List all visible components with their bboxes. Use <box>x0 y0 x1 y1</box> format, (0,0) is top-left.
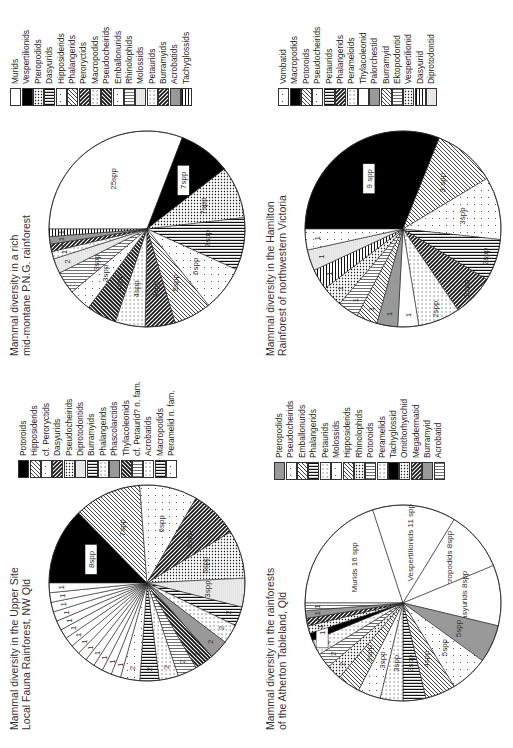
legend-swatch <box>274 462 285 480</box>
slice-label: 2 <box>338 661 347 666</box>
legend-label: Macropodids <box>155 408 166 456</box>
legend-swatch <box>170 88 181 106</box>
legend-swatch <box>301 88 312 106</box>
legend-label: Phalangerids <box>67 35 78 84</box>
slice-label: 1 <box>336 286 345 291</box>
slice-label: 1 <box>367 306 376 311</box>
legend-swatch <box>365 462 376 480</box>
panel-upper-site: Mammal diversity in the Upper Site Local… <box>0 374 256 748</box>
legend-item: cf. Peroryctids <box>41 381 52 478</box>
legend-label: Phascolarctids <box>109 402 120 456</box>
legend-label: Ornithorhynchid <box>399 399 410 458</box>
legend-swatch <box>422 462 433 480</box>
slice-label: 1 <box>59 602 68 607</box>
legend-swatch <box>158 88 169 106</box>
slice-label: 2spp <box>481 247 490 265</box>
hamilton-legend: VombatidMacropodidsPotoroidsPseudocheiri… <box>278 27 437 106</box>
legend-item: Phalangerids <box>98 381 109 478</box>
slice-label: 3spp <box>406 654 415 672</box>
legend-swatch <box>411 462 422 480</box>
legend-item: Dasyurids <box>44 27 55 106</box>
legend-label: Pseudocheirids <box>285 401 296 458</box>
legend-label: Dasyurids <box>52 419 63 456</box>
slice-label: 1 <box>57 230 66 235</box>
slice-label: 2 <box>128 665 137 670</box>
upper-site-title: Mammal diversity in the Upper Site Local… <box>8 567 32 730</box>
legend-swatch <box>331 462 342 480</box>
legend-item: Phalangerids <box>335 27 346 106</box>
legend-swatch <box>369 88 380 106</box>
legend-item: Pseudocheirids <box>64 381 75 478</box>
atherton-title: Mammal diversity in the rainforests of t… <box>264 568 288 730</box>
slice-label: 4spp <box>151 280 160 298</box>
legend-label: cf. Petaurid? n. fam. <box>132 381 143 456</box>
slice-label: 1 <box>100 655 109 660</box>
legend-swatch <box>415 88 426 106</box>
slice-label: 4spp <box>132 280 141 298</box>
legend-item: Hipposiderids <box>56 27 67 106</box>
slice-label: 7spp <box>118 518 127 536</box>
slice-label: 2 <box>224 610 233 615</box>
legend-item: Molossids <box>331 399 342 480</box>
legend-label: Phalangerids <box>98 407 109 456</box>
png-title: Mammal diversity in a rich mid-montane P… <box>8 215 32 356</box>
slice-label: 6spp <box>191 257 200 275</box>
legend-swatch <box>343 462 354 480</box>
legend-item: Peramelid n. fam. <box>166 381 177 478</box>
legend-swatch <box>75 460 86 478</box>
legend-swatch <box>354 462 365 480</box>
slice-label: 8spp <box>87 550 96 568</box>
legend-item: Acrobatid <box>433 399 444 480</box>
legend-label: Acrobatids <box>143 416 154 456</box>
legend-swatch <box>52 460 63 478</box>
legend-item: Tachyglossid <box>388 399 399 480</box>
legend-label: Potoroids <box>18 421 29 456</box>
legend-label: Megadermatid <box>411 404 422 458</box>
legend-label: Petaurids <box>324 49 335 84</box>
slice-label: 1 <box>58 243 67 248</box>
legend-item: Petaurids <box>147 27 158 106</box>
legend-swatch <box>30 460 41 478</box>
legend-swatch <box>297 462 308 480</box>
legend-item: Macropodids <box>289 27 300 106</box>
legend-item: Dasyurid <box>415 27 426 106</box>
legend-swatch <box>124 88 135 106</box>
slice-label: 5spp <box>201 556 210 574</box>
legend-label: Tachyglossids <box>181 32 192 84</box>
legend-item: Ornithorhynchid <box>399 399 410 480</box>
legend-item: Peroryctids <box>78 27 89 106</box>
legend-label: Molossids <box>135 47 146 84</box>
slice-label: Vespertilionids 11 spp <box>406 503 415 581</box>
legend-item: Tachyglossids <box>181 27 192 106</box>
legend-swatch <box>56 88 67 106</box>
legend-swatch <box>278 88 289 106</box>
legend-item: Macropodids <box>155 381 166 478</box>
legend-swatch <box>87 460 98 478</box>
legend-swatch <box>109 460 120 478</box>
png-pie: 25spp7spp7spp7spp6spp5spp4spp4spp4spp3sp… <box>40 114 254 334</box>
legend-label: Thylacoleonid <box>358 32 369 84</box>
slice-label: 1 <box>317 254 326 259</box>
legend-label: Macropodids <box>90 36 101 84</box>
legend-swatch <box>320 462 331 480</box>
slice-label: 1 <box>60 249 69 254</box>
legend-label: Diprotodontid <box>426 34 437 84</box>
slice-label: 1 <box>65 618 74 623</box>
hamilton-pie: 9 spp3 spp3spp2spp2spp2spp11111111 <box>296 114 510 334</box>
atherton-pie: Murids 16 sppVespertilionids 11 sppMacro… <box>296 488 510 708</box>
legend-label: Peroryctids <box>78 42 89 84</box>
legend-item: Burramyid <box>422 399 433 480</box>
slice-label: 3spp <box>101 264 110 282</box>
legend-swatch <box>286 462 297 480</box>
legend-item: Petaurids <box>324 27 335 106</box>
slice-label: 2spp <box>431 300 440 318</box>
legend-label: Vespertilionid <box>403 34 414 84</box>
legend-item: Acrobatids <box>143 381 154 478</box>
legend-item: Emballonurids <box>297 399 308 480</box>
slice-label: 1 <box>385 311 394 316</box>
legend-label: Vespertilionids <box>21 30 32 84</box>
legend-item: Burramyids <box>86 381 97 478</box>
slice-label: Murids 16 spp <box>350 542 359 593</box>
legend-swatch <box>135 88 146 106</box>
legend-swatch <box>324 88 335 106</box>
